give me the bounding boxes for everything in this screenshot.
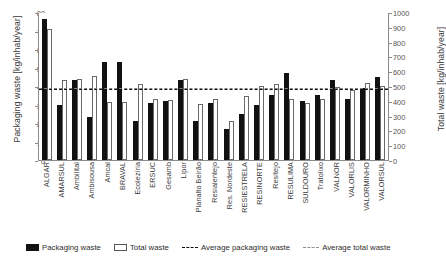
bar-total-waste [183,79,188,160]
bar-group [39,13,54,160]
bar-group [191,13,206,160]
x-axis-tick-label: Lipor [179,162,188,178]
x-axis-label-cell: Ecolezíria [130,162,145,232]
bar-groups [39,13,388,160]
bar-group [327,13,342,160]
bar-group [297,13,312,160]
bar-total-waste [380,86,385,160]
y-axis-tick-mark [389,13,392,14]
bar-total-waste [274,84,279,160]
bar-total-waste [122,102,127,160]
legend-swatch-average-total-waste [303,247,319,248]
bar-total-waste [320,99,325,160]
x-axis-tick-label: Ecolezíria [133,162,142,195]
bar-group [251,13,266,160]
bar-total-waste [259,86,264,160]
y-axis-tick-label: 100 [393,142,419,151]
bar-total-waste [244,96,249,160]
y-axis-tick-label: 400 [393,98,419,107]
y-axis-tick-mark [389,87,392,88]
y-axis-tick-label: 1000 [393,9,419,18]
x-axis-tick-label: Res. Nordeste [224,162,233,209]
x-axis-tick-label: VALORSUL [377,162,386,201]
x-axis-label-cell: SULDOURO [298,162,313,232]
x-axis-label-cell: Amcal [99,162,114,232]
x-axis-label-cell: Gesamb [160,162,175,232]
x-axis-tick-label: Resitejo [270,162,279,189]
bar-group [85,13,100,160]
bar-group [130,13,145,160]
bar-group [358,13,373,160]
y-axis-tick-label: 500 [393,83,419,92]
average-total-waste-line [39,88,388,89]
x-axis-tick-label: ALGAR [41,162,50,187]
bar-group [236,13,251,160]
bar-group [115,13,130,160]
y-axis-tick-label: 700 [393,53,419,62]
bar-group [69,13,84,160]
legend-item-packaging-waste: Packaging waste [26,243,101,252]
bar-total-waste [198,104,203,160]
bar-group [267,13,282,160]
bar-group [312,13,327,160]
x-axis-label-cell: RESULIMA [282,162,297,232]
y-axis-tick-mark [389,43,392,44]
bar-group [176,13,191,160]
x-axis-tick-label: Tratolixo [316,162,325,190]
x-axis-label-cell: VALNOR [328,162,343,232]
y-axis-tick-label: 800 [393,39,419,48]
legend-label-average-packaging-waste: Average packaging waste [201,243,290,252]
bar-total-waste [62,80,67,161]
bar-total-waste [168,100,173,160]
x-axis-label-cell: RESINORTE [252,162,267,232]
bar-total-waste [289,99,294,160]
legend-item-average-total-waste: Average total waste [303,243,390,252]
plot-area [38,13,389,161]
x-axis-tick-label: Resialentejo [209,162,218,203]
x-axis-label-cell: Lipor [175,162,190,232]
x-axis-tick-label: VALORLIS [346,162,355,197]
x-axis-tick-label: SULDOURO [301,162,310,204]
x-axis-tick-label: VALORMINHO [362,162,371,211]
y-axis-tick-mark [389,131,392,132]
y-axis-tick-mark [389,57,392,58]
legend-label-packaging-waste: Packaging waste [42,243,101,252]
x-axis-label-cell: Resialentejo [206,162,221,232]
legend-swatch-total-waste [114,244,127,251]
x-axis-tick-label: VALNOR [331,162,340,192]
x-axis-tick-label: RESIESTRELA [240,162,249,213]
bar-group [373,13,388,160]
x-axis-tick-label: Ambilital [72,162,81,190]
x-axis-label-cell: VALORLIS [343,162,358,232]
y-axis-tick-mark [389,146,392,147]
bar-group [342,13,357,160]
x-axis-label-cell: VALORSUL [374,162,389,232]
bar-total-waste [229,121,234,160]
y-axis-tick-label: 900 [393,24,419,33]
bar-total-waste [305,103,310,160]
x-axis-label-cell: Resitejo [267,162,282,232]
bar-total-waste [213,99,218,160]
x-axis-label-cell: ALGAR [38,162,53,232]
x-axis-label-cell: Ambilital [69,162,84,232]
legend-item-average-packaging-waste: Average packaging waste [182,243,290,252]
x-axis-tick-label: Amcal [102,162,111,182]
bar-total-waste [77,79,82,160]
x-axis-tick-label: RESULIMA [285,162,294,200]
bar-group [282,13,297,160]
bar-total-waste [138,84,143,160]
x-axis-tick-label: RESINORTE [255,162,264,205]
x-axis-tick-label: Gesamb [163,162,172,190]
legend-label-total-waste: Total waste [130,243,169,252]
x-axis-label-cell: Tratolixo [313,162,328,232]
x-axis-labels: ALGARAMARSULAmbilitalAmbisousaAmcalBRAVA… [38,162,389,232]
bar-group [221,13,236,160]
bar-total-waste [153,99,158,160]
legend-item-total-waste: Total waste [114,243,169,252]
bar-total-waste [365,83,370,160]
x-axis-tick-label: BRAVAL [117,162,126,190]
x-axis-tick-label: Planalto Beirão [194,162,203,212]
y-axis-tick-mark [389,117,392,118]
y-axis-tick-label: 600 [393,68,419,77]
x-axis-label-cell: AMARSUL [53,162,68,232]
